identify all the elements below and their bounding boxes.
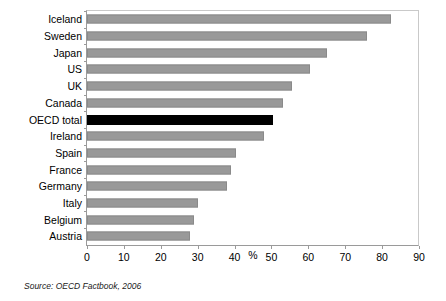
y-axis-tick — [84, 44, 87, 45]
x-axis: 0102030405060708090% — [86, 246, 420, 268]
bar-row: France — [87, 161, 419, 178]
x-axis-tick-label: 30 — [192, 251, 204, 263]
bar — [87, 215, 194, 224]
bar-row: Spain — [87, 145, 419, 162]
category-label: Spain — [55, 147, 82, 158]
x-axis-tick-label: 40 — [229, 251, 241, 263]
bar-row: Sweden — [87, 28, 419, 45]
x-axis-tick-label: 0 — [84, 251, 90, 263]
x-axis-tick — [198, 246, 199, 249]
y-axis-tick — [84, 28, 87, 29]
y-axis-tick — [84, 128, 87, 129]
bar-row: Austria — [87, 228, 419, 245]
bar — [87, 148, 236, 157]
bar-row: US — [87, 61, 419, 78]
x-axis-tick — [345, 246, 346, 249]
category-label: Italy — [63, 198, 82, 209]
y-axis-tick — [84, 95, 87, 96]
x-axis-tick-label: 90 — [413, 251, 425, 263]
bar — [87, 15, 391, 24]
y-axis-tick — [84, 195, 87, 196]
category-label: Ireland — [50, 131, 82, 142]
x-axis-tick — [235, 246, 236, 249]
category-label: Iceland — [48, 14, 82, 25]
bar-row: Belgium — [87, 211, 419, 228]
bar-row: Japan — [87, 44, 419, 61]
x-axis-tick — [419, 246, 420, 249]
bar — [87, 32, 367, 41]
bar — [87, 182, 227, 191]
x-axis-tick-label: 80 — [376, 251, 388, 263]
bar-row: Ireland — [87, 128, 419, 145]
bar — [87, 232, 190, 241]
category-label: Sweden — [44, 31, 82, 42]
y-axis-tick — [84, 111, 87, 112]
x-axis-tick — [382, 246, 383, 249]
bar-row: OECD total — [87, 111, 419, 128]
bar-row: Iceland — [87, 11, 419, 28]
bar — [87, 98, 283, 107]
y-axis-tick — [84, 145, 87, 146]
x-axis-unit-label: % — [248, 249, 257, 261]
x-axis-tick — [308, 246, 309, 249]
bar — [87, 65, 310, 74]
category-label: US — [67, 64, 82, 75]
category-label: Japan — [53, 47, 82, 58]
y-axis-tick — [84, 61, 87, 62]
category-label: France — [49, 164, 82, 175]
bar-row: Germany — [87, 178, 419, 195]
bar-row: Canada — [87, 95, 419, 112]
bar — [87, 115, 273, 125]
y-axis-tick — [84, 161, 87, 162]
bar — [87, 165, 231, 174]
category-label: UK — [67, 81, 82, 92]
bar — [87, 48, 327, 57]
x-axis-tick-label: 60 — [302, 251, 314, 263]
bar — [87, 132, 264, 141]
x-axis-tick-label: 50 — [266, 251, 278, 263]
x-axis-tick — [124, 246, 125, 249]
bar-row: Italy — [87, 195, 419, 212]
bar-row: UK — [87, 78, 419, 95]
chart-page: IcelandSwedenJapanUSUKCanadaOECD totalIr… — [0, 0, 446, 301]
category-label: Belgium — [44, 214, 82, 225]
category-label: OECD total — [29, 114, 82, 125]
bar — [87, 199, 198, 208]
bar-chart: IcelandSwedenJapanUSUKCanadaOECD totalIr… — [0, 0, 446, 268]
y-axis-tick — [84, 78, 87, 79]
x-axis-tick — [271, 246, 272, 249]
x-axis-tick-label: 70 — [339, 251, 351, 263]
y-axis-tick — [84, 178, 87, 179]
bar — [87, 82, 292, 91]
y-axis-tick — [84, 228, 87, 229]
category-label: Austria — [49, 231, 82, 242]
y-axis-tick — [84, 11, 87, 12]
x-axis-tick-label: 10 — [118, 251, 130, 263]
x-axis-tick — [161, 246, 162, 249]
x-axis-tick — [87, 246, 88, 249]
bar-rows: IcelandSwedenJapanUSUKCanadaOECD totalIr… — [87, 11, 419, 245]
category-label: Canada — [45, 97, 82, 108]
y-axis-tick — [84, 211, 87, 212]
source-note: Source: OECD Factbook, 2006 — [24, 281, 141, 291]
x-axis-tick-label: 20 — [155, 251, 167, 263]
category-label: Germany — [39, 181, 82, 192]
